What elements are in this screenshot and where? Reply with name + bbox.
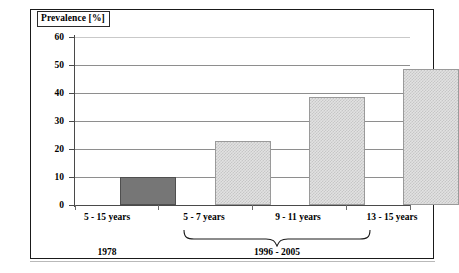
- bar-9-11-years: [309, 97, 365, 205]
- bar-5-7-years: [215, 141, 271, 205]
- gridline-60: [75, 37, 410, 38]
- gridline-50: [75, 65, 410, 66]
- group-label-1978: 1978: [57, 246, 157, 258]
- bar-13-15-years: [403, 69, 459, 205]
- x-tick-label-13-15-years: 13 - 15 years: [345, 211, 439, 223]
- x-tick-sep-0: [75, 205, 76, 210]
- x-tick-sep-3: [346, 205, 347, 210]
- y-tick-label-20: 20: [24, 144, 64, 154]
- y-tick-40: [69, 93, 75, 94]
- y-tick-10: [69, 177, 75, 178]
- y-tick-label-60: 60: [24, 32, 64, 42]
- y-tick-60: [69, 37, 75, 38]
- x-tick-sep-2: [252, 205, 253, 210]
- group-brace-icon: [182, 229, 372, 247]
- y-tick-20: [69, 149, 75, 150]
- x-tick-sep-4: [410, 205, 411, 210]
- y-tick-50: [69, 65, 75, 66]
- x-tick-label-5-7-years: 5 - 7 years: [157, 211, 251, 223]
- plot-area: [75, 37, 410, 205]
- y-tick-label-10: 10: [24, 172, 64, 182]
- y-tick-30: [69, 121, 75, 122]
- frame-shadow-line: [30, 261, 435, 262]
- x-tick-sep-1: [158, 205, 159, 210]
- y-axis-title: Prevalence [%]: [37, 11, 110, 27]
- x-axis-line: [74, 205, 411, 206]
- gridline-40: [75, 93, 410, 94]
- bar-5-15-years: [120, 177, 176, 205]
- group-label-1996-2005: 1996 - 2005: [207, 246, 347, 258]
- y-tick-label-40: 40: [24, 88, 64, 98]
- y-tick-label-50: 50: [24, 60, 64, 70]
- x-tick-label-9-11-years: 9 - 11 years: [251, 211, 345, 223]
- y-tick-label-0: 0: [24, 200, 64, 210]
- y-tick-label-30: 30: [24, 116, 64, 126]
- x-tick-label-5-15-years: 5 - 15 years: [57, 211, 157, 223]
